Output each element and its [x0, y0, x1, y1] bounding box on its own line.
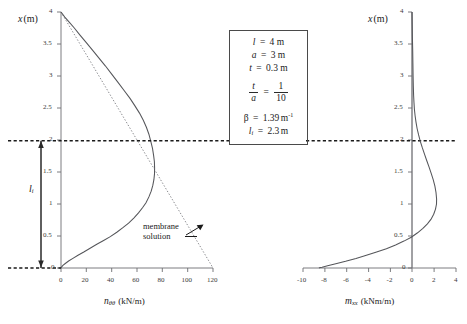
- param-beta-value: 1.39: [263, 113, 280, 123]
- param-a: a = 3 m: [230, 50, 307, 60]
- left-y-axis-title-main: x: [18, 13, 22, 24]
- param-a-rhs: 3 m: [271, 50, 286, 60]
- right-ytick-1: 1: [400, 200, 404, 207]
- param-ratio-lhs-den: a: [249, 93, 258, 104]
- figure-root: x(m) 4 3.5 3 2.5 2 1.5 1 0.5 0 0 20 40 6…: [0, 0, 467, 324]
- param-t: t = 0.3 m: [230, 63, 307, 73]
- param-t-lhs: t: [249, 63, 252, 73]
- left-ytick-2_5: 2.5: [43, 104, 52, 111]
- param-a-lhs: a: [252, 50, 257, 60]
- left-xtick-40: 40: [107, 277, 114, 284]
- right-xtick-4: 4: [454, 277, 458, 284]
- right-xtick-2: 2: [432, 277, 436, 284]
- right-x-axis-title-main: m: [345, 296, 352, 306]
- right-ytick-0: 0: [402, 264, 406, 271]
- param-beta-eq: =: [253, 113, 258, 123]
- param-li-sub: i: [251, 129, 253, 136]
- param-ratio-lhs-num: t: [249, 81, 258, 93]
- left-x-axis-title: nθθ(kN/m): [104, 297, 145, 307]
- li-bracket-arrow-top: [38, 141, 44, 148]
- param-ratio-rhs: 1 10: [274, 81, 288, 104]
- left-ytick-0_5: 0.5: [43, 232, 52, 239]
- parameter-box: l = 4 m a = 3 m t = 0.3 m t a = 1 10 β: [229, 30, 308, 145]
- right-xtick-0: 0: [410, 277, 414, 284]
- param-li-value: 2.3: [267, 126, 279, 136]
- right-ytick-3_5: 3.5: [394, 40, 403, 47]
- right-x-ticks: [303, 268, 456, 272]
- left-ytick-1_5: 1.5: [43, 168, 52, 175]
- right-xtick--8: -8: [321, 277, 327, 284]
- left-xtick-60: 60: [132, 277, 139, 284]
- left-xtick-120: 120: [207, 277, 218, 284]
- left-x-axis-title-unit: (kN/m): [118, 296, 145, 306]
- left-xtick-100: 100: [182, 277, 193, 284]
- left-y-ticks: [57, 12, 61, 268]
- li-bracket-arrow-bottom: [38, 261, 44, 268]
- right-y-axis-title-unit: (m): [373, 13, 387, 24]
- param-beta-unit-exp: -1: [288, 112, 293, 118]
- left-xtick-0: 0: [59, 277, 63, 284]
- hoop-force-chart: [8, 12, 229, 272]
- right-x-axis-title-sub: xx: [352, 299, 358, 306]
- left-x-axis-title-sub: θθ: [109, 299, 115, 306]
- param-li-eq: =: [258, 126, 263, 136]
- membrane-arrow-head: [197, 224, 204, 230]
- param-beta-symbol: β: [244, 113, 249, 123]
- param-ratio-lhs: t a: [249, 81, 258, 104]
- param-ratio: t a = 1 10: [230, 81, 307, 104]
- left-ytick-3_5: 3.5: [43, 40, 52, 47]
- membrane-solution-line: [61, 12, 213, 268]
- bending-moment-chart: [303, 12, 456, 272]
- right-xtick--10: -10: [297, 277, 306, 284]
- left-ytick-0: 0: [51, 264, 55, 271]
- left-xtick-80: 80: [158, 277, 165, 284]
- param-ratio-rhs-num: 1: [274, 81, 288, 93]
- left-y-axis-title-unit: (m): [23, 13, 37, 24]
- left-ytick-2: 2: [49, 136, 53, 143]
- left-y-axis-title: x(m): [18, 14, 38, 24]
- param-li: li = 2.3m: [230, 126, 307, 136]
- right-ytick-2: 2: [400, 136, 404, 143]
- right-ytick-1_5: 1.5: [394, 168, 403, 175]
- right-ytick-0_5: 0.5: [394, 232, 403, 239]
- right-y-axis-title: x(m): [368, 14, 388, 24]
- right-x-axis-title: mxx(kNm/m): [345, 297, 394, 307]
- param-t-eq: =: [256, 63, 261, 73]
- param-l: l = 4 m: [230, 37, 307, 47]
- li-bracket-label: li: [29, 183, 34, 194]
- right-ytick-3: 3: [400, 72, 404, 79]
- param-a-eq: =: [261, 50, 266, 60]
- left-xtick-20: 20: [82, 277, 89, 284]
- membrane-solution-line2: solution: [143, 232, 179, 242]
- param-ratio-eq: =: [263, 87, 268, 97]
- left-x-ticks: [61, 268, 213, 272]
- right-x-axis-title-unit: (kNm/m): [361, 296, 395, 306]
- right-y-axis-title-main: x: [368, 13, 372, 24]
- right-xtick--4: -4: [365, 277, 371, 284]
- left-ytick-4: 4: [49, 8, 53, 15]
- param-l-eq: =: [260, 37, 265, 47]
- param-li-unit: m: [281, 126, 288, 136]
- right-xtick--6: -6: [343, 277, 349, 284]
- right-xtick--2: -2: [387, 277, 393, 284]
- param-ratio-rhs-den: 10: [274, 93, 288, 104]
- right-y-ticks: [408, 12, 412, 268]
- membrane-solution-annotation: membrane solution: [143, 222, 179, 242]
- right-ytick-4: 4: [400, 8, 404, 15]
- left-ytick-3: 3: [49, 72, 53, 79]
- bending-moment-curve: [319, 12, 437, 268]
- li-bracket-label-sub: i: [32, 187, 34, 194]
- left-ytick-1: 1: [49, 200, 53, 207]
- param-l-rhs: 4 m: [270, 37, 285, 47]
- right-ytick-2_5: 2.5: [394, 104, 403, 111]
- param-t-rhs: 0.3 m: [266, 63, 288, 73]
- param-beta: β = 1.39m-1: [230, 112, 307, 123]
- hoop-force-curve: [61, 12, 155, 268]
- param-l-lhs: l: [253, 37, 256, 47]
